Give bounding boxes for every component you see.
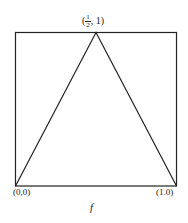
function-caption: f xyxy=(90,201,93,213)
unit-square xyxy=(16,33,177,187)
apex-label: (12, 1) xyxy=(82,14,104,29)
tent-function-line xyxy=(16,33,177,187)
right-corner-label: (1.0) xyxy=(156,187,173,197)
origin-label: (0,0) xyxy=(13,187,30,197)
